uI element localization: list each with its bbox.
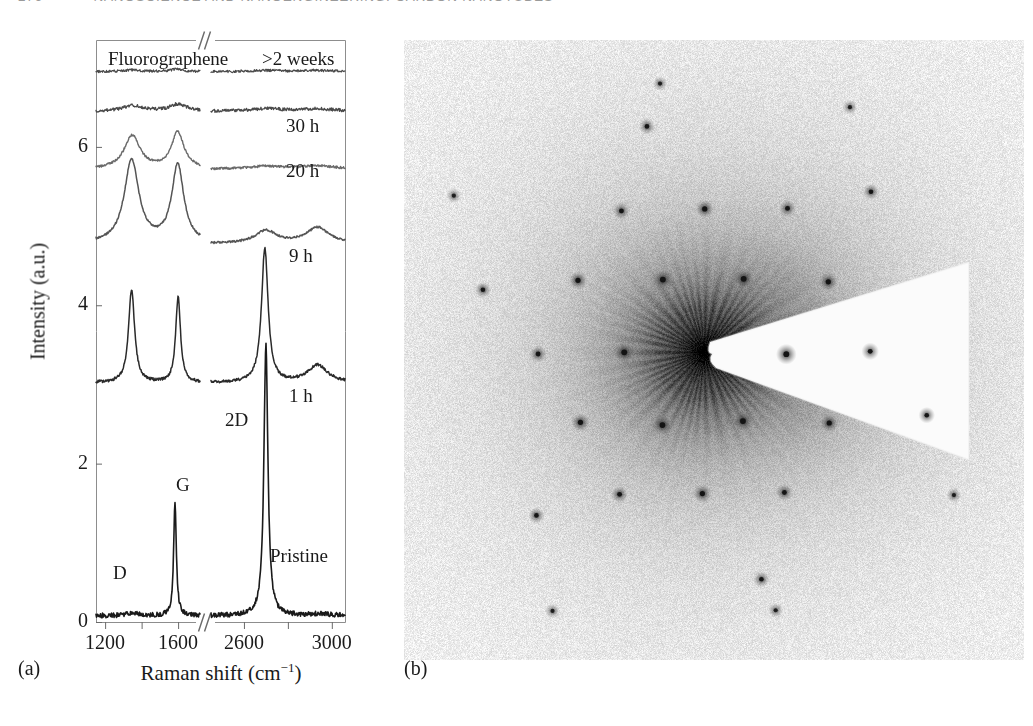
y-axis-label: Intensity (a.u.) (27, 202, 50, 402)
panel-a-raman-spectra: Intensity (a.u.) Raman shift (cm−1) 0246… (0, 0, 415, 726)
electron-diffraction-image (404, 40, 1024, 660)
peak-label-d: D (113, 562, 127, 584)
y-tick-6: 6 (48, 134, 88, 157)
raman-spectra-plot (0, 0, 415, 660)
peak-label-g: G (176, 474, 190, 496)
y-tick-2: 2 (48, 451, 88, 474)
series-label-fluorographene: Fluorographene (108, 48, 228, 70)
x-axis-label-paren: ) (294, 661, 301, 685)
series-label-9-h: 9 h (289, 245, 313, 267)
peak-label-2d: 2D (225, 409, 248, 431)
peak-label-pristine: Pristine (270, 545, 328, 567)
y-tick-0: 0 (48, 609, 88, 632)
series-label-2-weeks: >2 weeks (262, 48, 334, 70)
x-tick-1200: 1200 (65, 631, 145, 654)
panel-b-diffraction: (b) (404, 0, 1033, 726)
x-axis-label: Raman shift (cm−1) (96, 660, 346, 686)
series-label-30-h: 30 h (286, 115, 319, 137)
x-tick-2600: 2600 (204, 631, 284, 654)
series-label-1-h: 1 h (289, 385, 313, 407)
x-axis-label-text: Raman shift (cm (141, 661, 281, 685)
panel-a-caption: (a) (18, 657, 40, 680)
panel-b-caption: (b) (404, 657, 427, 680)
series-label-20-h: 20 h (286, 160, 319, 182)
x-tick-3000: 3000 (292, 631, 372, 654)
y-tick-4: 4 (48, 292, 88, 315)
